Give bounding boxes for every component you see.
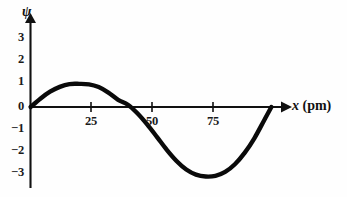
y-tick-label-2: 2 <box>0 53 24 66</box>
wavefunction-chart: ψ x (pm) 3 2 1 0 −1 −2 −3 25 50 75 <box>0 0 347 197</box>
y-tick-label-0: 0 <box>0 100 24 113</box>
x-axis-title-variable: x <box>292 98 299 113</box>
y-tick-label-neg3: −3 <box>0 166 24 179</box>
psi-curve <box>31 84 272 177</box>
x-tick-label-50: 50 <box>140 115 164 128</box>
x-tick-label-75: 75 <box>201 115 225 128</box>
y-tick-label-3: 3 <box>0 31 24 44</box>
y-tick-label-1: 1 <box>0 75 24 88</box>
x-axis-title: x (pm) <box>292 99 331 113</box>
x-tick-label-25: 25 <box>79 115 103 128</box>
y-tick-label-neg1: −1 <box>0 122 24 135</box>
y-tick-label-neg2: −2 <box>0 144 24 157</box>
y-axis-title: ψ <box>22 5 31 19</box>
x-axis-title-unit-value: (pm) <box>303 98 332 113</box>
x-axis-arrow-icon <box>281 102 292 113</box>
